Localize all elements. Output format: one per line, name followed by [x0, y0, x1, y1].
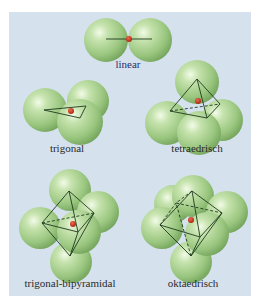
- ligand-sphere: [141, 207, 183, 249]
- center-atom: [68, 108, 74, 114]
- ligand-sphere: [84, 18, 128, 62]
- tetrahedral-molecule: [145, 60, 243, 155]
- ligand-sphere: [57, 99, 103, 145]
- trigonal-bipyramidal-molecule: [19, 169, 119, 283]
- center-atom: [126, 36, 132, 42]
- label-tetrahedral: tetraedrisch: [171, 142, 222, 154]
- label-trigonal: trigonal: [50, 142, 84, 154]
- trigonal-molecule: [23, 80, 109, 145]
- center-atom: [195, 98, 201, 104]
- ligand-sphere: [128, 18, 172, 62]
- ligand-sphere: [57, 210, 101, 254]
- label-octahedral: oktaedrisch: [168, 277, 219, 289]
- octahedral-molecule: [141, 175, 248, 283]
- linear-molecule: [84, 18, 172, 62]
- center-atom: [188, 217, 194, 223]
- label-linear: linear: [115, 58, 140, 70]
- center-atom: [70, 221, 76, 227]
- ligand-sphere: [19, 207, 61, 249]
- label-trigonal-bipyramidal: trigonal-bipyramidal: [24, 277, 115, 289]
